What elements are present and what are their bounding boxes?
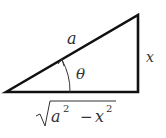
hypotenuse-label: a (67, 29, 77, 48)
minus-sign: − (80, 108, 93, 126)
radicand-x: x (95, 107, 104, 126)
opposite-label: x (146, 49, 154, 65)
right-triangle-diagram: a x θ a 2 − x 2 (0, 0, 166, 138)
triangle (6, 15, 138, 92)
exponent-x: 2 (106, 103, 112, 114)
radicand-a: a (51, 107, 61, 126)
angle-label: θ (76, 65, 85, 83)
exponent-a: 2 (63, 103, 69, 114)
adjacent-label: a 2 − x 2 (36, 101, 116, 126)
